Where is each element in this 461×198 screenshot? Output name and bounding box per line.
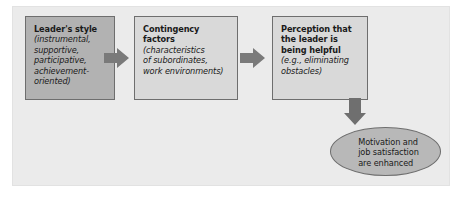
ellipse-label-motivation-satisfaction: Motivation and job satisfaction are enha… xyxy=(354,137,419,169)
diagram-box-perception-helpful: Perception that the leader is being help… xyxy=(272,16,368,100)
diagram-box-contingency-factors: Contingency factors (characteristics of … xyxy=(134,16,238,100)
arrow-style-to-contingency-icon xyxy=(104,47,130,69)
diagram-canvas: Leader's style (instrumental, supportive… xyxy=(0,0,461,198)
arrow-perception-to-outcome-icon xyxy=(344,98,368,126)
box-subtitle-leaders-style: (instrumental, supportive, participative… xyxy=(34,34,107,86)
ellipse-text-wrapper: Motivation and job satisfaction are enha… xyxy=(331,128,442,177)
diagram-box-leaders-style: Leader's style (instrumental, supportive… xyxy=(25,16,115,100)
arrow-contingency-to-perception-icon xyxy=(240,47,266,69)
box-title-contingency-factors: Contingency factors xyxy=(143,24,230,45)
box-subtitle-contingency-factors: (characteristics of subordinates, work e… xyxy=(143,45,230,76)
box-title-perception-helpful: Perception that the leader is being help… xyxy=(281,24,360,55)
diagram-ellipse-motivation-satisfaction: Motivation and job satisfaction are enha… xyxy=(330,127,441,176)
box-title-leaders-style: Leader's style xyxy=(34,24,107,34)
box-subtitle-perception-helpful: (e.g., eliminating obstacles) xyxy=(281,55,360,76)
